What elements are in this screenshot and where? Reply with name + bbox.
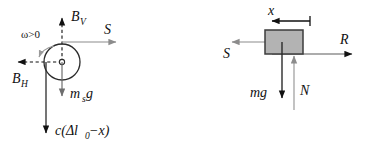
x-displacement-label: x: [267, 3, 275, 18]
bh-label-subscript: H: [20, 79, 29, 89]
figure-canvas: ω>0 B V B H S m s g c(Δl 0 −x) x S R: [0, 0, 370, 144]
bh-label-base: B: [12, 71, 21, 86]
normal-force-label: N: [299, 83, 310, 98]
disc-weight-label-base: m: [70, 86, 80, 101]
spring-force-label-base: c(Δl: [55, 123, 78, 139]
bv-label-subscript: V: [80, 17, 87, 27]
left-s-label: S: [104, 22, 111, 37]
right-diagram-group: x S R mg N: [223, 3, 352, 110]
spring-force-label-tail: −x): [89, 123, 110, 139]
block-body: [265, 30, 303, 54]
right-s-label: S: [223, 46, 230, 61]
physics-figure: ω>0 B V B H S m s g c(Δl 0 −x) x S R: [0, 0, 370, 144]
bv-label-base: B: [71, 9, 80, 24]
omega-label: ω>0: [21, 28, 40, 40]
left-diagram-group: ω>0 B V B H S m s g c(Δl 0 −x): [12, 9, 116, 141]
disc-weight-label-tail: g: [86, 86, 93, 101]
block-weight-label: mg: [250, 85, 267, 100]
r-label: R: [339, 32, 349, 47]
